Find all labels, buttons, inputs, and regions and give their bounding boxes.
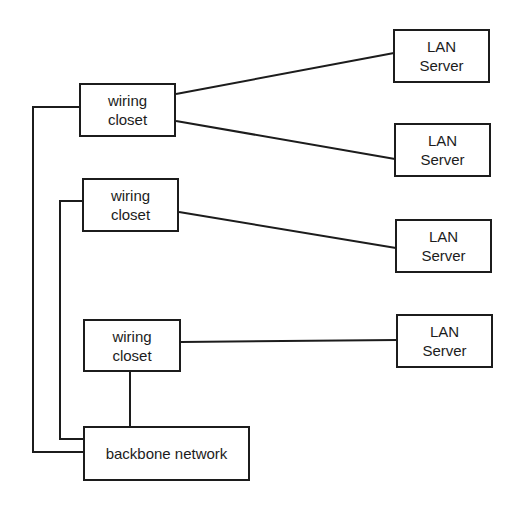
edge-closet3-server4 (181, 340, 397, 342)
node-label-line2: closet (111, 205, 150, 224)
edge-closet1-server2 (176, 121, 395, 159)
node-label-line2: Server (419, 56, 463, 75)
lan-server-4: LAN Server (396, 314, 493, 368)
node-label-line1: LAN (427, 37, 456, 56)
edge-closet1-backbone (33, 107, 84, 452)
node-label-line2: Server (422, 341, 466, 360)
edge-closet2-server3 (179, 212, 396, 248)
lan-server-3: LAN Server (395, 219, 492, 273)
wiring-closet-1: wiring closet (79, 83, 176, 137)
edge-closet1-server1 (176, 53, 394, 94)
node-label-line1: LAN (428, 131, 457, 150)
node-label-line2: Server (420, 150, 464, 169)
node-label-line1: wiring (112, 327, 151, 346)
node-label-line2: closet (108, 110, 147, 129)
node-label-line2: closet (112, 346, 151, 365)
lan-server-1: LAN Server (393, 29, 490, 83)
lan-server-2: LAN Server (394, 123, 491, 177)
node-label-line1: LAN (430, 322, 459, 341)
edge-closet2-backbone (60, 201, 84, 439)
network-diagram: wiring closet wiring closet wiring close… (0, 0, 516, 506)
wiring-closet-2: wiring closet (82, 178, 179, 232)
node-label: backbone network (106, 444, 228, 463)
node-label-line1: LAN (429, 227, 458, 246)
backbone-network: backbone network (83, 426, 250, 481)
node-label-line2: Server (421, 246, 465, 265)
wiring-closet-3: wiring closet (83, 319, 181, 372)
node-label-line1: wiring (108, 91, 147, 110)
node-label-line1: wiring (111, 186, 150, 205)
